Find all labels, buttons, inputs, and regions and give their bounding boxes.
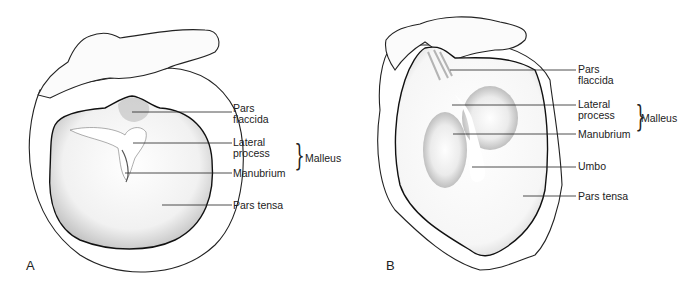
brace-a-malleus: }: [294, 140, 305, 170]
panel-letter-a: A: [26, 258, 35, 273]
tympanic-membrane-drawings: [0, 0, 686, 285]
panel-a-drawing: [29, 30, 243, 272]
label-a-pars-tensa: Pars tensa: [233, 200, 283, 212]
label-b-malleus: Malleus: [641, 113, 677, 125]
label-b-lateral-process-2: process: [578, 110, 615, 122]
label-b-manubrium: Manubrium: [578, 129, 631, 141]
label-b-pars-flaccida-2: flaccida: [578, 75, 614, 87]
label-a-lateral-process-2: process: [233, 148, 270, 160]
label-a-pars-flaccida-2: flaccida: [233, 114, 269, 126]
label-a-manubrium: Manubrium: [233, 168, 286, 180]
label-a-malleus: Malleus: [305, 153, 341, 165]
panel-b-drawing: [378, 17, 576, 270]
label-b-pars-tensa: Pars tensa: [578, 191, 628, 203]
label-b-umbo: Umbo: [578, 161, 606, 173]
panel-letter-b: B: [386, 258, 395, 273]
